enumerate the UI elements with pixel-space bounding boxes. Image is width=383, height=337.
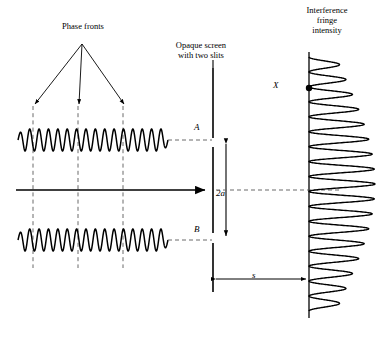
phase-front-arrow-center <box>79 44 82 104</box>
point-x-marker <box>306 85 312 91</box>
figure-canvas: Phase fronts Opaque screen with two slit… <box>0 0 383 337</box>
interference-intensity-label: Interference fringe intensity <box>290 6 364 35</box>
slit-separation-label: 2a <box>216 188 225 198</box>
screen-distance-label: s <box>252 270 256 280</box>
slit-b-label: B <box>194 224 200 234</box>
phase-front-arrow-right <box>82 44 124 104</box>
point-x-label: X <box>273 80 279 90</box>
phase-front-arrows <box>35 44 124 104</box>
interference-fringe-curve <box>309 57 375 311</box>
slit-a-label: A <box>194 122 200 132</box>
lower-wave-train <box>18 229 168 251</box>
phase-fronts-label: Phase fronts <box>41 22 125 32</box>
phase-front-arrow-left <box>35 44 82 104</box>
opaque-screen-label: Opaque screen with two slits <box>156 41 246 61</box>
upper-wave-train <box>18 129 168 151</box>
